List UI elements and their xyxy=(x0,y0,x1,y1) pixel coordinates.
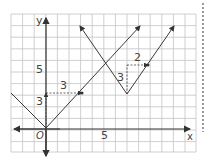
page-edge-dots xyxy=(202,2,204,132)
y-tick-5: 5 xyxy=(36,63,43,76)
origin-label: O xyxy=(36,130,44,141)
coordinate-plane: y x O 5 5 3 3 3 2 xyxy=(0,0,209,162)
y-axis-label: y xyxy=(36,14,43,27)
x-tick-5: 5 xyxy=(101,129,108,142)
shift-vertical-label-2: 3 xyxy=(117,71,124,84)
shift-horizontal-label-1: 3 xyxy=(60,79,67,92)
shift-horizontal-label-2: 2 xyxy=(134,51,141,64)
x-axis-label: x xyxy=(187,131,193,142)
shift-vertical-label-1: 3 xyxy=(36,95,43,108)
